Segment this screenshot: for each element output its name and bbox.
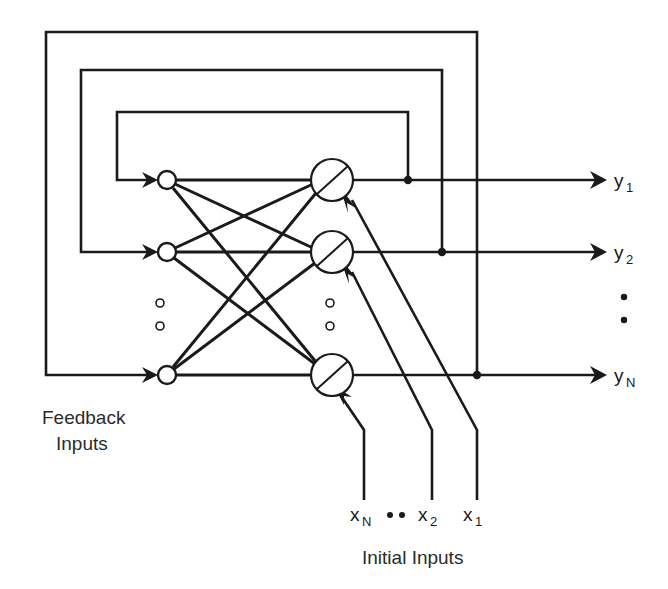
output-label-ellipsis xyxy=(621,294,627,323)
caption-feedback-inputs: Feedback Inputs xyxy=(42,407,126,454)
neuron-units xyxy=(311,159,353,396)
junction-dot-y2 xyxy=(438,248,446,256)
input-label-x1-sub: 1 xyxy=(475,514,482,529)
node-ellipsis-dot-1 xyxy=(156,299,164,307)
output-label-y2-sub: 2 xyxy=(626,252,633,267)
initial-inputs-caption: Initial Inputs xyxy=(362,547,463,568)
junction-dot-yN xyxy=(473,371,481,379)
input-label-x2-base: x xyxy=(418,504,428,525)
neuron-3 xyxy=(311,354,353,396)
input-wire-xN xyxy=(341,396,364,500)
output-label-yN-base: y xyxy=(614,365,624,386)
feedback-path-inner-y1 xyxy=(117,112,408,180)
input-label-ellipsis xyxy=(387,512,405,518)
neuron-ellipsis xyxy=(326,299,334,330)
output-label-y1-base: y xyxy=(614,170,624,191)
network-diagram-canvas: y 1 y 2 y N x N x 2 x 1 Feedback xyxy=(0,0,668,589)
feedback-inputs-caption-line1: Feedback xyxy=(42,407,126,428)
input-label-xN-base: x xyxy=(350,504,360,525)
neuron-1 xyxy=(311,159,353,201)
initial-input-wires xyxy=(334,187,477,500)
output-label-yN-sub: N xyxy=(626,375,635,390)
neuron-2 xyxy=(311,231,353,273)
output-label-y1-sub: 1 xyxy=(626,180,633,195)
input-ellipsis-dot-2 xyxy=(399,512,405,518)
input-ellipsis-dot-1 xyxy=(387,512,393,518)
input-wire-x1 xyxy=(352,200,477,500)
feedback-node-3 xyxy=(158,366,176,384)
output-ellipsis-dot-2 xyxy=(621,317,627,323)
junction-dot-y1 xyxy=(404,176,412,184)
feedback-node-2 xyxy=(158,243,176,261)
output-ellipsis-dot-1 xyxy=(621,294,627,300)
neuron-ellipsis-dot-1 xyxy=(326,299,334,307)
output-label-y2-base: y xyxy=(614,242,624,263)
output-labels: y 1 y 2 y N xyxy=(614,170,635,390)
input-label-x1-base: x xyxy=(463,504,473,525)
feedback-inputs-caption-line2: Inputs xyxy=(56,433,108,454)
input-label-xN-sub: N xyxy=(362,514,371,529)
feedback-node-1 xyxy=(158,171,176,189)
feedback-node-ellipsis xyxy=(156,299,164,330)
neuron-ellipsis-dot-2 xyxy=(326,322,334,330)
input-labels: x N x 2 x 1 xyxy=(350,504,482,529)
feedback-input-nodes xyxy=(158,171,176,384)
feedback-arrowheads xyxy=(142,172,158,383)
node-ellipsis-dot-2 xyxy=(156,322,164,330)
recurrent-network-svg: y 1 y 2 y N x N x 2 x 1 Feedback xyxy=(0,0,668,589)
synapse-connections xyxy=(173,180,316,375)
input-label-x2-sub: 2 xyxy=(430,514,437,529)
